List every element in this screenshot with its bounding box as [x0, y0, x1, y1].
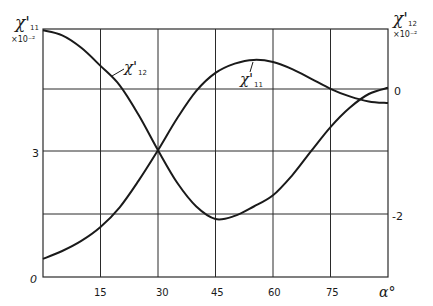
curve-12-subscript: 12 [138, 69, 147, 77]
grid-lines [43, 29, 388, 277]
right-axis-subscript: 12 [408, 20, 417, 28]
curve-11-symbol: χ' [239, 70, 253, 88]
curve-11-subscript: 11 [254, 81, 263, 89]
chart: χ' 11 ×10⁻² χ' 12 ×10⁻² 0 3 0 -2 15 30 4… [0, 0, 433, 306]
x-tick-30: 30 [156, 287, 169, 298]
curve-12-label: χ' 12 [123, 58, 147, 77]
left-axis-title: χ' 11 ×10⁻² [11, 12, 39, 44]
right-tick-0: 0 [394, 85, 401, 98]
plot-area [43, 29, 388, 277]
x-axis-title: α° [379, 284, 395, 300]
right-tick-minus-2: -2 [392, 210, 403, 223]
x-tick-60: 60 [268, 287, 281, 298]
curve-12-symbol: χ' [123, 58, 137, 76]
x-tick-75: 75 [326, 287, 339, 298]
left-axis-subscript: 11 [30, 24, 39, 32]
x-tick-45: 45 [211, 287, 224, 298]
left-axis-symbol: χ' [14, 12, 30, 32]
left-tick-3: 3 [32, 147, 39, 160]
x-tick-15: 15 [94, 287, 107, 298]
right-axis-symbol: χ' [392, 8, 408, 28]
curve-11-label: χ' 11 [239, 70, 263, 89]
left-tick-0: 0 [30, 273, 37, 286]
right-axis-title: χ' 12 ×10⁻² [392, 8, 417, 39]
curve-12-leader [112, 69, 124, 76]
left-axis-scale: ×10⁻² [11, 35, 35, 44]
right-axis-scale: ×10⁻² [393, 30, 417, 39]
